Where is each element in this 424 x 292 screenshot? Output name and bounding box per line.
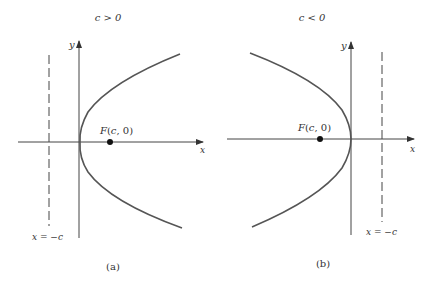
focus-point-a (107, 139, 113, 145)
directrix-label-b: x = −c (366, 227, 397, 237)
panel-b: c < 0 x y x = −c F(c, 0) (b) (227, 12, 415, 269)
focus-label-b: F(c, 0) (297, 122, 331, 133)
focus-point-b (317, 136, 323, 142)
condition-label-b: c < 0 (299, 12, 326, 23)
parabola-curve-b (250, 53, 351, 227)
condition-label-a: c > 0 (95, 12, 122, 23)
x-axis-label-b: x (410, 144, 415, 154)
panel-a: c > 0 x y x = −c F(c, 0) (a) (18, 12, 205, 272)
directrix-label-a: x = −c (32, 232, 63, 242)
focus-label-a: F(c, 0) (99, 125, 133, 136)
y-axis-label-b: y (340, 40, 347, 51)
y-axis-label-a: y (68, 39, 75, 50)
x-axis-label-a: x (200, 145, 205, 155)
caption-b: (b) (316, 258, 330, 269)
caption-a: (a) (106, 261, 120, 272)
parabola-diagram: c > 0 x y x = −c F(c, 0) (a) c < 0 x y x… (0, 0, 424, 292)
parabola-curve-a (80, 54, 182, 228)
